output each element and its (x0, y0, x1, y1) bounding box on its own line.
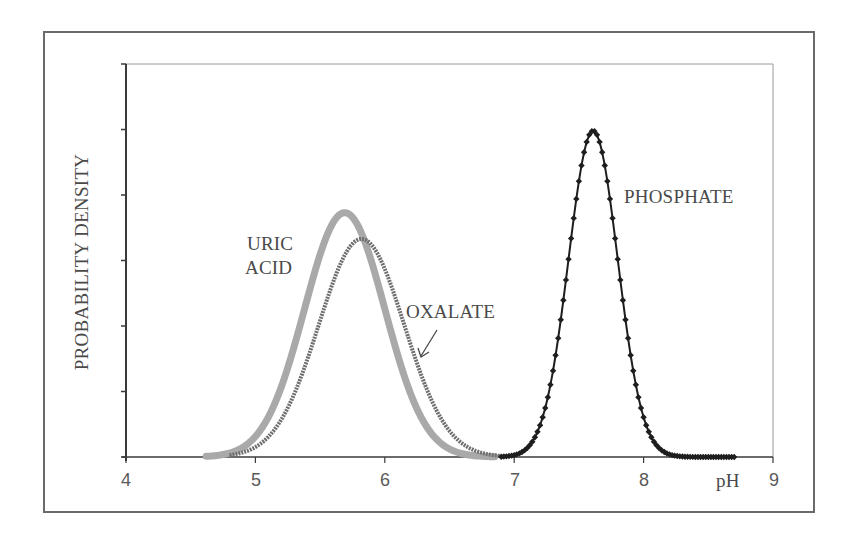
x-axis-label: pH (716, 470, 740, 492)
plot-area (0, 0, 851, 542)
x-tick-9: 9 (769, 470, 779, 491)
phosphate-marker (573, 196, 579, 202)
phosphate-marker (537, 422, 543, 428)
phosphate-marker (602, 162, 608, 168)
phosphate-marker (620, 297, 626, 303)
phosphate-marker (627, 352, 633, 358)
x-tick-8: 8 (639, 470, 649, 491)
oxalate-label: OXALATE (406, 301, 495, 323)
phosphate-marker (555, 335, 561, 341)
phosphate-marker (542, 405, 548, 411)
phosphate-marker (604, 178, 610, 184)
phosphate-marker (558, 317, 564, 323)
phosphate-marker (571, 215, 577, 221)
phosphate-marker (552, 352, 558, 358)
phosphate-marker (630, 368, 636, 374)
phosphate-marker (545, 394, 551, 400)
x-tick-4: 4 (121, 470, 131, 491)
phosphate-marker (565, 256, 571, 262)
phosphate-marker (638, 405, 644, 411)
phosphate-marker (581, 149, 587, 155)
uric-acid-label-line2: ACID (245, 257, 292, 279)
phosphate-marker (617, 277, 623, 283)
phosphate-marker (539, 414, 545, 420)
phosphate-marker (599, 149, 605, 155)
phosphate-marker (635, 394, 641, 400)
x-tick-7: 7 (510, 470, 520, 491)
phosphate-marker (609, 215, 615, 221)
phosphate-marker (640, 414, 646, 420)
phosphate-marker (568, 235, 574, 241)
phosphate-marker (625, 335, 631, 341)
phosphate-marker (607, 196, 613, 202)
phosphate-marker (596, 139, 602, 145)
phosphate-curve (501, 131, 734, 457)
phosphate-marker (583, 139, 589, 145)
phosphate-marker (547, 382, 553, 388)
x-tick-6: 6 (380, 470, 390, 491)
phosphate-marker (615, 256, 621, 262)
phosphate-marker (563, 277, 569, 283)
phosphate-marker (612, 235, 618, 241)
y-axis-label: PROBABILITY DENSITY (71, 154, 93, 371)
uric-acid-label-line1: URIC (247, 233, 293, 255)
phosphate-marker (646, 429, 652, 435)
phosphate-marker (633, 382, 639, 388)
phosphate-marker (560, 297, 566, 303)
x-tick-5: 5 (251, 470, 261, 491)
phosphate-label: PHOSPHATE (624, 186, 734, 208)
phosphate-marker (576, 178, 582, 184)
phosphate-marker (534, 429, 540, 435)
phosphate-marker (578, 162, 584, 168)
phosphate-marker (643, 422, 649, 428)
phosphate-marker (550, 368, 556, 374)
phosphate-marker (622, 317, 628, 323)
